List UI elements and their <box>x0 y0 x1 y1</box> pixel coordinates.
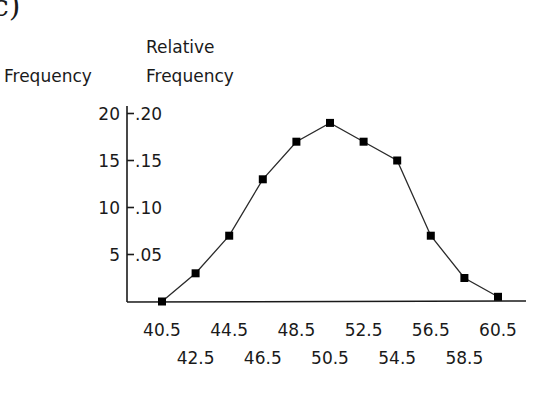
data-point-marker <box>393 157 401 165</box>
x-tick-label: 46.5 <box>244 348 282 368</box>
data-point-marker <box>259 175 267 183</box>
y-tick-label-frequency: 10 <box>98 198 120 218</box>
data-point-marker <box>360 138 368 146</box>
y-axis-label-relative-line1: Relative <box>146 37 215 57</box>
x-axis <box>127 301 526 302</box>
y-axis-label-frequency: Frequency <box>4 66 92 86</box>
x-tick-label: 40.5 <box>143 320 181 340</box>
x-tick-label: 60.5 <box>479 320 517 340</box>
data-point-marker <box>427 232 435 240</box>
x-tick-label: 56.5 <box>412 320 450 340</box>
data-point-marker <box>292 138 300 146</box>
y-axis-label-relative-line2: Frequency <box>146 66 234 86</box>
data-point-marker <box>460 274 468 282</box>
panel-label: c) <box>0 0 21 23</box>
x-tick-label: 48.5 <box>277 320 315 340</box>
y-tick-label-frequency: 5 <box>109 245 120 265</box>
x-tick-label: 54.5 <box>378 348 416 368</box>
data-point-marker <box>326 119 334 127</box>
y-ticks: 5.0510.1015.1520.20 <box>98 104 162 265</box>
frequency-polygon-line <box>162 123 498 302</box>
x-tick-labels: 40.544.548.552.556.560.542.546.550.554.5… <box>143 320 517 368</box>
y-tick-label-frequency: 20 <box>98 104 120 124</box>
data-point-marker <box>192 269 200 277</box>
y-tick-label-relative: .10 <box>135 198 162 218</box>
y-tick-label-relative: .20 <box>135 104 162 124</box>
y-tick-label-frequency: 15 <box>98 151 120 171</box>
data-point-markers <box>158 119 502 306</box>
data-point-marker <box>494 293 502 301</box>
x-tick-label: 58.5 <box>445 348 483 368</box>
x-tick-label: 44.5 <box>210 320 248 340</box>
x-tick-label: 50.5 <box>311 348 349 368</box>
x-tick-label: 42.5 <box>177 348 215 368</box>
y-tick-label-relative: .05 <box>135 245 162 265</box>
data-point-marker <box>225 232 233 240</box>
data-point-marker <box>158 298 166 306</box>
y-tick-label-relative: .15 <box>135 151 162 171</box>
x-tick-label: 52.5 <box>345 320 383 340</box>
frequency-polygon-chart: c) Frequency Relative Frequency 5.0510.1… <box>0 0 558 400</box>
